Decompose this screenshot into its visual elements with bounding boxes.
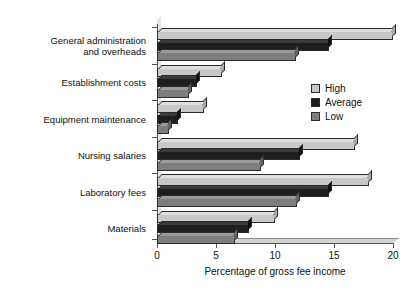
legend-item-high: High [311,82,389,95]
bar-side-face [188,82,192,95]
bar-side-face [368,170,372,183]
bar-side-face [274,207,278,220]
category-label: Nursing salaries [0,150,146,161]
bar-low-5 [157,235,235,244]
bar-top-face [158,174,372,178]
bar-side-face [248,217,252,230]
category-axis-labels: General administration and overheads Est… [0,30,152,243]
bar-top-face [158,185,332,189]
x-axis-title: Percentage of gross fee income [157,266,393,277]
plot-area: 05101520 [157,24,393,243]
x-axis-tick-label: 5 [204,250,228,261]
bar-side-face [295,45,299,58]
x-axis-tick-label: 10 [263,250,287,261]
y-axis-tick [152,137,157,138]
bar-top-face [158,138,358,142]
bar-side-face [296,191,300,204]
bar-top-face [158,39,332,43]
legend-item-low: Low [311,110,389,123]
bar-top-face [158,232,238,236]
bar-side-face [328,35,332,48]
bar-side-face [196,71,200,84]
bar-side-face [299,144,303,157]
bar-side-face [203,97,207,110]
bar-top-face [158,195,300,199]
bar-side-face [177,108,181,121]
bar-low-1 [157,89,189,98]
x-axis-tick-label: 20 [381,250,405,261]
bar-top-face [158,148,303,152]
x-axis-tick [216,243,217,248]
y-axis-tick [152,173,157,174]
y-axis-tick [152,64,157,65]
bar-top-face [158,221,252,225]
y-axis-tick [152,27,157,28]
bar-side-face [392,24,396,37]
bar-top-face [158,86,192,90]
bar-low-4 [157,198,297,207]
category-label: Materials [0,223,146,234]
bar-side-face [354,134,358,147]
bar-low-0 [157,52,296,61]
bar-side-face [328,181,332,194]
bar-chart: General administration and overheads Est… [0,0,419,300]
legend-item-average: Average [311,96,389,109]
category-label: Laboratory fees [0,187,146,198]
y-axis-tick [152,239,157,240]
bar-top-face [158,65,225,69]
bar-top-face [158,159,264,163]
y-axis-tick [152,100,157,101]
y-axis-tick [152,210,157,211]
bar-side-face [221,61,225,74]
bar-low-2 [157,125,169,134]
bar-top-face [158,101,207,105]
legend-swatch-average [311,98,320,107]
legend-label-low: Low [325,112,343,122]
bar-top-face [158,211,278,215]
legend-label-average: Average [325,98,362,108]
x-axis-tick [334,243,335,248]
bar-top-face [158,28,396,32]
legend-swatch-low [311,112,320,121]
category-label: General administration and overheads [0,35,146,57]
legend-label-high: High [325,84,346,94]
legend: High Average Low [311,82,389,124]
bar-low-3 [157,162,261,171]
bar-top-face [158,49,299,53]
x-axis-tick [157,243,158,248]
bar-side-face [260,155,264,168]
bar-side-face [168,118,172,131]
category-label: Establishment costs [0,77,146,88]
x-axis-tick-label: 15 [322,250,346,261]
bar-top-face [158,75,200,79]
x-axis-tick [275,243,276,248]
x-axis-tick-label: 0 [145,250,169,261]
x-axis-tick [393,243,394,248]
legend-swatch-high [311,84,320,93]
category-label: Equipment maintenance [0,114,146,125]
